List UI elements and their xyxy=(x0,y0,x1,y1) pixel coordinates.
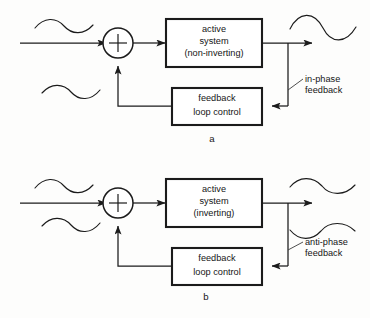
panel-a-output-signal-waveform xyxy=(290,15,356,40)
panel-b-feedback-block-line1: feedback xyxy=(198,253,236,263)
panel-b-feedback-return-line xyxy=(118,226,172,266)
panel-a-active-system-line2: system xyxy=(199,36,228,46)
panel-a-feedback-signal-waveform xyxy=(42,85,100,98)
panel-b-active-system-line3: (inverting) xyxy=(194,208,235,218)
panel-b-output-signal-waveform xyxy=(290,179,355,194)
panel-a-active-system-line1: active xyxy=(202,24,226,34)
panel-a-active-system-line3: (non-inverting) xyxy=(184,48,243,58)
panel-b-antiphase-feedback-waveform xyxy=(290,224,355,239)
panel-b-feedback-block-line2: loop control xyxy=(193,267,241,277)
panel-b-label: b xyxy=(203,291,208,302)
panel-a-annotation-line2: feedback xyxy=(305,85,343,95)
feedback-loop-diagram: active system (non-inverting) feedback l… xyxy=(0,0,370,318)
panel-b-annotation-leader-line xyxy=(288,242,303,250)
panel-a-feedback-block-line2: loop control xyxy=(193,107,241,117)
panel-b-annotation-line1: anti-phase xyxy=(305,237,348,247)
panel-b-active-system-line2: system xyxy=(199,196,228,206)
panel-b-feedback-signal-waveform xyxy=(42,218,100,231)
panel-a-label: a xyxy=(209,133,215,144)
panel-b-active-system-line1: active xyxy=(202,184,226,194)
diagram-canvas: active system (non-inverting) feedback l… xyxy=(0,0,370,318)
panel-a-feedback-return-line xyxy=(118,66,172,106)
panel-a-feedback-block-line1: feedback xyxy=(198,93,236,103)
panel-b-annotation-line2: feedback xyxy=(305,248,343,258)
panel-b: active system (inverting) feedback loop … xyxy=(20,179,355,302)
panel-b-input-signal-waveform xyxy=(35,179,93,192)
panel-a-input-signal-waveform xyxy=(35,19,93,32)
panel-a-annotation-leader-line xyxy=(288,79,303,90)
panel-a-annotation-line1: in-phase xyxy=(305,74,340,84)
panel-a: active system (non-inverting) feedback l… xyxy=(20,15,356,143)
